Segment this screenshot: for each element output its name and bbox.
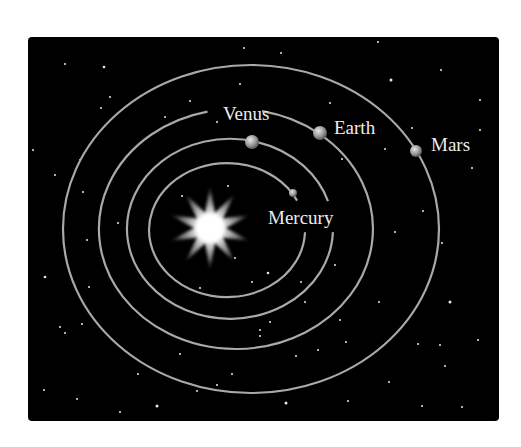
star — [82, 191, 84, 193]
star — [300, 281, 302, 283]
star — [334, 264, 336, 266]
star — [164, 116, 166, 118]
star — [441, 242, 443, 244]
star — [227, 185, 229, 187]
star — [189, 100, 191, 102]
star — [377, 41, 379, 43]
star — [119, 411, 121, 413]
star — [43, 389, 45, 391]
star — [216, 384, 218, 386]
star — [269, 321, 271, 323]
star — [477, 339, 479, 341]
star — [329, 102, 331, 104]
star — [32, 149, 34, 151]
star — [317, 349, 319, 351]
star — [449, 301, 452, 304]
star — [285, 402, 288, 405]
star — [411, 127, 413, 129]
star — [243, 47, 245, 49]
star — [239, 83, 241, 85]
star — [444, 365, 446, 367]
star — [479, 99, 481, 101]
star — [64, 63, 66, 65]
star — [417, 343, 419, 345]
star — [64, 332, 66, 334]
star — [88, 286, 90, 288]
star — [339, 319, 341, 321]
star — [137, 373, 139, 375]
star — [267, 272, 270, 275]
star — [471, 167, 473, 169]
star — [259, 329, 261, 331]
solar-system-diagram: MercuryVenusEarthMars — [0, 0, 521, 447]
planet-venus — [245, 135, 259, 149]
star — [181, 195, 183, 197]
star — [384, 148, 386, 150]
star — [103, 66, 106, 69]
star — [156, 405, 159, 408]
star — [440, 69, 442, 71]
star — [347, 400, 349, 402]
star — [199, 287, 201, 289]
star — [216, 121, 218, 123]
star — [345, 341, 347, 343]
planet-mars — [410, 145, 422, 157]
star — [196, 390, 198, 392]
star — [304, 301, 306, 303]
label-mars: Mars — [431, 134, 470, 155]
label-venus: Venus — [223, 103, 269, 124]
sun-core — [196, 214, 224, 242]
star — [259, 335, 261, 337]
star — [461, 406, 463, 408]
star — [179, 353, 181, 355]
planet-earth — [313, 126, 327, 140]
star — [251, 281, 253, 283]
label-earth: Earth — [334, 117, 376, 138]
planet-mercury — [289, 189, 297, 197]
star — [109, 96, 111, 98]
star — [479, 129, 481, 131]
star — [86, 239, 88, 241]
star — [341, 158, 343, 160]
star — [390, 79, 393, 82]
star — [388, 381, 390, 383]
label-mercury: Mercury — [268, 207, 334, 228]
star — [295, 355, 297, 357]
star — [100, 107, 102, 109]
star — [421, 405, 423, 407]
star — [234, 257, 236, 259]
star — [394, 231, 396, 233]
star — [54, 174, 56, 176]
star — [59, 326, 61, 328]
star — [44, 276, 47, 279]
star — [76, 398, 78, 400]
star — [280, 52, 282, 54]
star — [231, 373, 233, 375]
star — [117, 222, 119, 224]
star — [378, 301, 380, 303]
star — [439, 344, 441, 346]
star — [81, 323, 83, 325]
star — [422, 210, 424, 212]
